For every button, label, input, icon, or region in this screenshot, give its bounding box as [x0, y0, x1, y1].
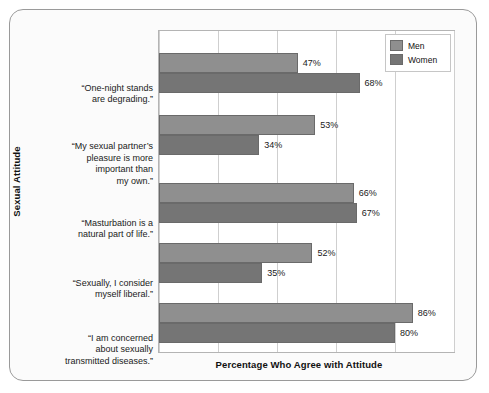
bar-value-label: 68%	[360, 73, 383, 93]
category-labels: “One-night standsare degrading.”“My sexu…	[18, 30, 158, 353]
category-label-line: “I am concerned	[23, 333, 153, 345]
category-label-line: myself liberal.”	[23, 289, 153, 301]
category-label-line: pleasure is more	[23, 153, 153, 165]
chart-legend: MenWomen	[385, 34, 451, 72]
legend-label: Women	[408, 55, 437, 65]
bar-value-label: 47%	[298, 53, 321, 73]
legend-label: Men	[408, 41, 425, 51]
x-axis-title: Percentage Who Agree with Attitude	[149, 359, 449, 370]
legend-item-men[interactable]: Men	[390, 39, 446, 52]
bar-women[interactable]	[159, 73, 360, 93]
bar-value-label: 80%	[395, 323, 418, 343]
category-label-line: are degrading.”	[23, 94, 153, 106]
category-label: “My sexual partner’spleasure is moreimpo…	[23, 141, 158, 187]
bar-women[interactable]	[159, 203, 357, 223]
category-label-line: “My sexual partner’s	[23, 141, 153, 153]
bar-group: 53%34%	[159, 115, 454, 155]
category-label: “I am concernedabout sexuallytransmitted…	[23, 333, 158, 368]
category-label-line: “Sexually, I consider	[23, 278, 153, 290]
bar-women[interactable]	[159, 263, 262, 283]
category-label-line: natural part of life.”	[23, 229, 153, 241]
legend-item-women[interactable]: Women	[390, 53, 446, 66]
bar-men[interactable]	[159, 53, 298, 73]
bar-women[interactable]	[159, 323, 395, 343]
legend-swatch-icon	[390, 40, 403, 51]
bar-value-label: 34%	[259, 135, 282, 155]
bar-group: 52%35%	[159, 243, 454, 283]
category-label-line: “Masturbation is a	[23, 218, 153, 230]
category-label-line: about sexually	[23, 344, 153, 356]
category-label: “Masturbation is anatural part of life.”	[23, 218, 158, 241]
bar-value-label: 53%	[315, 115, 338, 135]
bar-men[interactable]	[159, 243, 312, 263]
bar-value-label: 52%	[312, 243, 335, 263]
category-label-line: transmitted diseases.”	[23, 356, 153, 368]
bar-value-label: 66%	[354, 183, 377, 203]
gridline-100	[454, 31, 455, 352]
bar-men[interactable]	[159, 115, 315, 135]
category-label-line: important than	[23, 164, 153, 176]
plot-area: 47%68%53%34%66%67%52%35%86%80% MenWomen	[158, 30, 455, 353]
bar-group: 86%80%	[159, 303, 454, 343]
chart-figure: Sexual Attitude Percentage Who Agree wit…	[0, 0, 489, 393]
bar-men[interactable]	[159, 303, 413, 323]
category-label: “Sexually, I considermyself liberal.”	[23, 278, 158, 301]
category-label-line: “One-night stands	[23, 83, 153, 95]
category-label: “One-night standsare degrading.”	[23, 83, 158, 106]
bar-groups: 47%68%53%34%66%67%52%35%86%80%	[159, 31, 454, 352]
bar-value-label: 35%	[262, 263, 285, 283]
bar-women[interactable]	[159, 135, 259, 155]
bar-value-label: 86%	[413, 303, 436, 323]
category-label-line: my own.”	[23, 176, 153, 188]
bar-value-label: 67%	[357, 203, 380, 223]
bar-men[interactable]	[159, 183, 354, 203]
legend-swatch-icon	[390, 54, 403, 65]
bar-group: 66%67%	[159, 183, 454, 223]
